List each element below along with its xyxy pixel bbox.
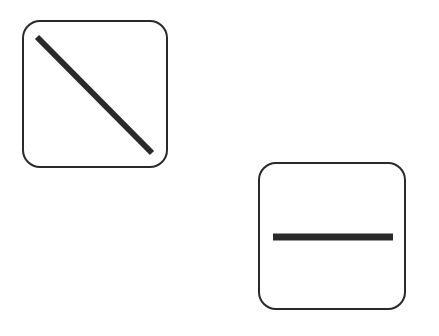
diagonal-line-icon: [37, 37, 152, 153]
symbol-lines: [0, 0, 439, 336]
